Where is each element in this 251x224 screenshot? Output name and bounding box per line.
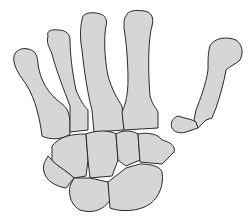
fractured-phalanx-upper: [194, 38, 242, 128]
hand-skeleton-svg: [0, 0, 251, 224]
carpal-bone-2: [86, 131, 118, 178]
finger-bone-4: [122, 11, 158, 130]
hand-skeleton-illustration: [0, 0, 251, 224]
carpal-bone-6: [69, 178, 110, 212]
carpal-bone-3: [116, 131, 140, 166]
carpal-bone-7: [108, 164, 163, 211]
carpal-bone-4: [138, 133, 174, 164]
